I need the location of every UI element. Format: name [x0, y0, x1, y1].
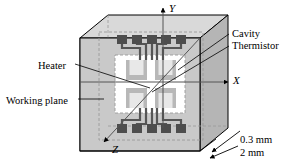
- x-axis-label: X: [233, 74, 240, 86]
- chip-right-face: [200, 15, 228, 151]
- bond-pad: [176, 124, 186, 133]
- z-axis-label: Z: [112, 143, 118, 155]
- bond-pad: [176, 35, 186, 44]
- bond-pad: [147, 124, 157, 133]
- thermistor-element: [155, 60, 176, 80]
- bond-pad: [132, 35, 142, 44]
- thermistor-element: [155, 88, 176, 108]
- y-axis-label: Y: [169, 2, 175, 14]
- sensor-chip-diagram: Heater Working plane Cavity Thermistor 0…: [0, 0, 299, 168]
- thickness-dimension-label: 0.3 mm: [240, 134, 272, 146]
- cavity-label: Cavity: [232, 28, 260, 40]
- heater-label: Heater: [38, 60, 66, 72]
- bond-pad: [117, 124, 127, 133]
- bond-pad: [117, 35, 127, 44]
- bond-pad: [147, 35, 157, 44]
- bond-pad: [132, 124, 142, 133]
- working-plane-label: Working plane: [6, 95, 68, 107]
- thermistor-label: Thermistor: [232, 40, 279, 52]
- depth-dimension-arrow: [210, 146, 238, 158]
- thermistor-element: [126, 88, 147, 108]
- thermistor-element: [126, 60, 147, 80]
- depth-dimension-label: 2 mm: [240, 147, 264, 159]
